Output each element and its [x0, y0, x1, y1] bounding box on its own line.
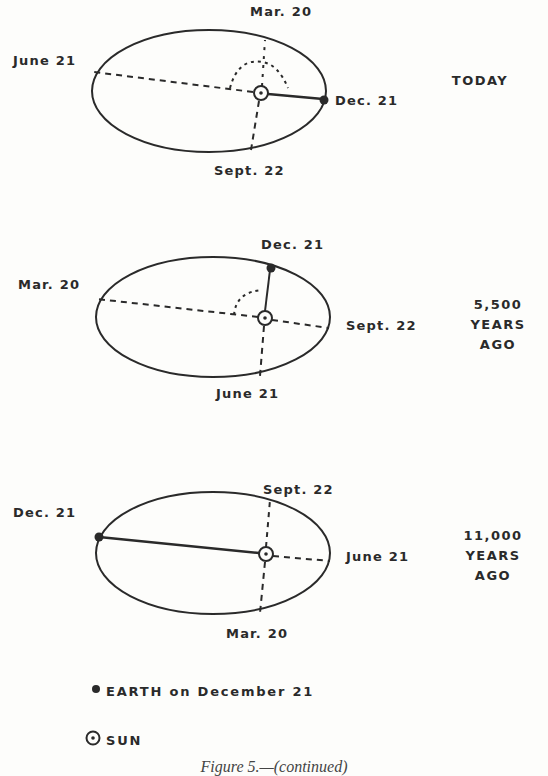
earth-sun-line [99, 537, 259, 553]
panel-11000-orbit [95, 492, 331, 614]
angle-arc [230, 62, 288, 88]
panel-today-label-top: Mar. 20 [250, 4, 312, 19]
earth-icon [95, 533, 104, 542]
earth-sun-line [265, 270, 270, 311]
panel-5500-label-right: Sept. 22 [346, 318, 417, 333]
panel-11000-label-right: June 21 [346, 549, 409, 564]
mar-axis-dashed-line [260, 562, 265, 613]
sept-axis-dashed-line [272, 320, 329, 328]
legend-earth-icon [92, 685, 100, 693]
figure-caption: Figure 5.—(continued) [0, 758, 548, 776]
orbit-ellipse [96, 492, 330, 614]
panel-today-label-bottom: Sept. 22 [214, 163, 285, 178]
legend-sun-label: SUN [106, 733, 142, 748]
sept-axis-dashed-line [266, 500, 270, 547]
orbit-ellipse [96, 257, 330, 377]
panel-5500-label-bottom: June 21 [216, 386, 279, 401]
panel-11000-label-bottom: Mar. 20 [226, 626, 288, 641]
panel-today-era-label: TODAY [440, 71, 520, 91]
sept-axis-dashed-line [251, 101, 259, 150]
sun-center-dot [263, 316, 267, 320]
panel-11000-era-label: 11,000 YEARS AGO [448, 526, 538, 586]
june-axis-dashed-line [94, 72, 253, 92]
legend-earth-label: EARTH on December 21 [106, 684, 314, 699]
panel-5500-orbit [96, 257, 330, 377]
orbit-ellipse [92, 30, 326, 152]
sun-center-dot [264, 552, 268, 556]
mar-axis-dotted-line [262, 40, 265, 86]
panel-5500-label-left: Mar. 20 [18, 277, 80, 292]
panel-11000-label-left: Dec. 21 [13, 505, 76, 520]
panel-today-label-left: June 21 [13, 53, 76, 68]
panel-11000-label-top: Sept. 22 [263, 482, 334, 497]
june-axis-dashed-line [260, 326, 264, 376]
earth-icon [267, 264, 276, 273]
panel-5500-era-label: 5,500 YEARS AGO [458, 295, 538, 355]
earth-sun-line [268, 94, 323, 99]
earth-icon [320, 96, 329, 105]
panel-today-orbit [92, 30, 329, 152]
angle-arc [234, 290, 262, 315]
sun-center-dot [259, 91, 263, 95]
legend-sun-center-dot [91, 736, 95, 740]
panel-5500-label-top: Dec. 21 [261, 237, 324, 252]
june-axis-dashed-line [273, 556, 330, 561]
panel-today-label-right: Dec. 21 [335, 93, 398, 108]
